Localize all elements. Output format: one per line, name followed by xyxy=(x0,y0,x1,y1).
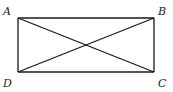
vertex-label-d: D xyxy=(2,77,12,90)
vertex-label-a: A xyxy=(2,5,11,18)
vertex-label-c: C xyxy=(158,77,167,90)
rectangle-diagram: A B C D xyxy=(0,0,173,92)
vertex-label-b: B xyxy=(157,5,166,18)
